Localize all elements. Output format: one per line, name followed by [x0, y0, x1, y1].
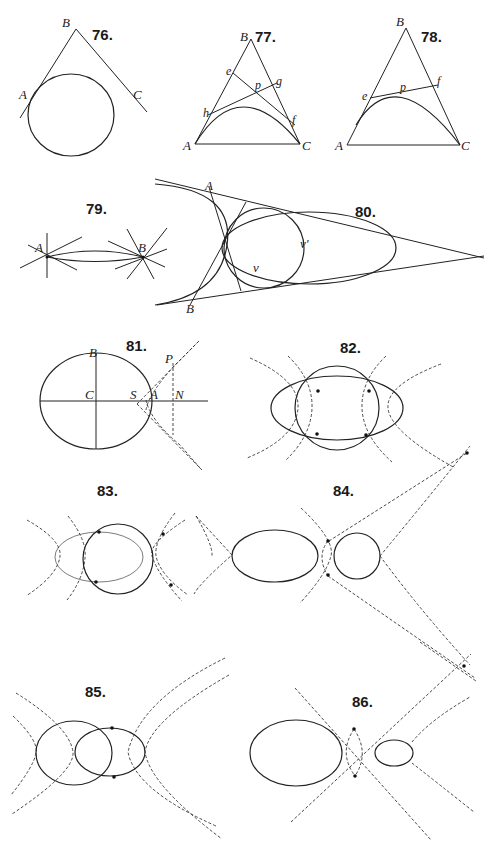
- intersection-dot: [110, 726, 114, 730]
- ellipse: [55, 532, 143, 582]
- figure-78: 78. B e p f A C: [334, 14, 470, 153]
- figure-number-79: 79.: [86, 200, 107, 217]
- inner-circle: [224, 208, 304, 288]
- dashed-curve-right-2: [156, 513, 188, 595]
- intersection-dot: [353, 774, 357, 778]
- figure-number-86: 86.: [352, 693, 373, 710]
- dashed-curve-right: [152, 520, 185, 601]
- point-label-p: P: [164, 351, 173, 366]
- dashed-line-lower-long: [328, 576, 475, 678]
- point-label-n: N: [174, 387, 185, 402]
- ellipse: [271, 376, 403, 440]
- dashed-curve-middle-b: [322, 541, 328, 576]
- intersection-dot: [112, 775, 116, 779]
- dashed-hyperbola-right-inner: [362, 356, 392, 462]
- figure-number-84: 84.: [333, 482, 354, 499]
- point-label-v: v: [253, 260, 259, 275]
- circle: [334, 533, 380, 579]
- dashed-line-down: [295, 688, 431, 840]
- point-label-g: g: [276, 74, 282, 88]
- dashed-hyperbola-left-a: [12, 693, 73, 814]
- figure-number-85: 85.: [85, 683, 106, 700]
- tangent-line-hg: [208, 83, 277, 115]
- point-label-h: h: [203, 106, 209, 120]
- diagram-plate: 76. B A C 77. B e p g h f A C 78. B e p …: [0, 0, 500, 851]
- figure-81: 81. B C S A N P: [40, 337, 208, 470]
- dashed-curve-right-lower: [412, 763, 474, 812]
- point-label-b: B: [240, 29, 248, 44]
- point-label-a: A: [149, 387, 158, 402]
- point-label-a: A: [204, 178, 213, 193]
- point-label-a: A: [182, 138, 191, 153]
- intersection-dot: [169, 583, 173, 587]
- circle: [295, 366, 379, 450]
- figure-86: 86.: [250, 642, 476, 840]
- figure-number-82: 82.: [340, 339, 361, 356]
- lens-arc-upper: [47, 251, 143, 257]
- dashed-line-top: [420, 642, 476, 681]
- triangle-side-ab: [195, 39, 251, 144]
- parabolic-arc: [195, 107, 300, 144]
- large-circle-arc: [155, 184, 228, 305]
- figure-84: 84.: [194, 446, 475, 678]
- lens-arc-lower: [47, 257, 143, 262]
- point-label-e: e: [362, 89, 368, 103]
- figure-number-80: 80.: [355, 203, 376, 220]
- dashed-hyperbola-right-b: [145, 675, 229, 839]
- dashed-curve-left: [194, 516, 232, 594]
- intersection-dot: [352, 727, 356, 731]
- dashed-hyperbola-right-outer: [388, 364, 455, 468]
- tangent-line-ba: [20, 29, 76, 118]
- point-b-dot: [142, 256, 145, 259]
- figure-85: 85.: [11, 658, 229, 839]
- figure-83: 83.: [26, 482, 188, 601]
- figure-77: 77. B e p g h f A C: [182, 28, 311, 153]
- intersection-dot: [94, 580, 98, 584]
- ellipse: [232, 530, 318, 582]
- point-label-b: B: [396, 14, 404, 29]
- dashed-line-up: [291, 654, 471, 822]
- lower-tangent-line: [157, 256, 484, 305]
- point-label-c: C: [461, 138, 470, 153]
- figure-number-81: 81.: [126, 337, 147, 354]
- dashed-curve-middle-a: [300, 508, 331, 603]
- point-label-p: p: [399, 80, 406, 94]
- point-label-c: C: [302, 138, 311, 153]
- inner-ellipse: [222, 212, 396, 284]
- dashed-hyperbola-left-outer: [247, 358, 298, 458]
- intersection-dot: [462, 664, 466, 668]
- point-label-a: A: [334, 138, 343, 153]
- parabolic-arc: [356, 97, 460, 145]
- point-label-p: p: [254, 78, 261, 92]
- point-label-a: A: [18, 87, 27, 102]
- point-label-c: C: [85, 387, 94, 402]
- point-label-s: S: [130, 387, 137, 402]
- point-label-e: e: [226, 64, 232, 78]
- point-label-b: B: [138, 240, 146, 255]
- intersection-dot: [364, 433, 368, 437]
- intersection-dot: [315, 432, 319, 436]
- intersection-dot: [97, 530, 101, 534]
- intersection-dot: [465, 451, 469, 455]
- figure-number-77: 77.: [255, 28, 276, 45]
- dashed-hyperbola-left-b: [11, 716, 36, 795]
- triangle-side-bc: [406, 28, 460, 145]
- point-label-c: C: [133, 87, 142, 102]
- figure-76: 76. B A C: [18, 15, 147, 156]
- intersection-dot: [367, 389, 371, 393]
- ellipse-small: [375, 740, 413, 766]
- dashed-lens-right: [354, 729, 362, 776]
- intersection-dot: [161, 532, 165, 536]
- triangle-side-ab: [347, 28, 406, 145]
- dashed-curve: [196, 516, 212, 556]
- figure-number-76: 76.: [92, 26, 113, 43]
- point-label-b: B: [186, 301, 194, 316]
- point-label-v-prime: v': [300, 236, 309, 251]
- intersection-dot: [316, 389, 320, 393]
- ellipse: [28, 74, 114, 156]
- figure-79: 79. A B: [20, 200, 167, 279]
- point-a-dot: [46, 256, 49, 259]
- dashed-curve-right-upper: [412, 697, 470, 742]
- figure-number-78: 78.: [421, 28, 442, 45]
- point-label-f: f: [437, 74, 442, 88]
